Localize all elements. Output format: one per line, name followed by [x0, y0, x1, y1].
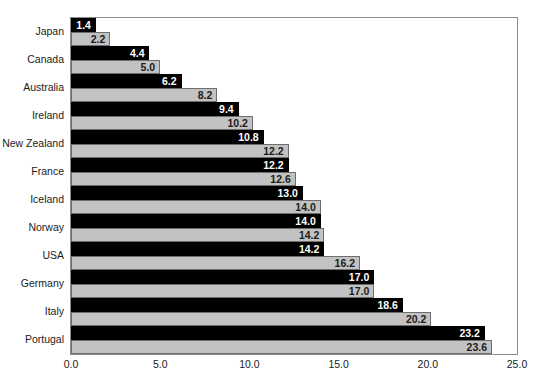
bar: 4.4: [71, 46, 149, 60]
bar-value-label: 14.2: [299, 243, 323, 255]
bar-value-label: 20.2: [406, 313, 430, 325]
bar-value-label: 6.2: [162, 75, 181, 87]
category-label: New Zealand: [0, 138, 64, 149]
bar: 13.0: [71, 186, 303, 200]
x-tick-label: 10.0: [239, 358, 259, 370]
bar-value-label: 17.0: [349, 285, 373, 297]
bar-value-label: 14.2: [299, 229, 323, 241]
category-label: USA: [0, 250, 64, 261]
bar: 8.2: [71, 88, 217, 102]
bar-value-label: 14.0: [295, 201, 319, 213]
bar-value-label: 5.0: [141, 61, 160, 73]
bar: 6.2: [71, 74, 182, 88]
bar: 18.6: [71, 298, 403, 312]
category-label: Norway: [0, 222, 64, 233]
category-label: France: [0, 166, 64, 177]
bar: 17.0: [71, 284, 374, 298]
category-label: Japan: [0, 26, 64, 37]
bar-value-label: 14.0: [295, 215, 319, 227]
bar-value-label: 8.2: [198, 89, 217, 101]
category-label: Ireland: [0, 110, 64, 121]
x-tick-label: 25.0: [507, 358, 527, 370]
bar-value-label: 2.2: [91, 33, 110, 45]
bar: 17.0: [71, 270, 374, 284]
category-label: Iceland: [0, 194, 64, 205]
bar-value-label: 1.4: [76, 19, 95, 31]
category-label: Canada: [0, 54, 64, 65]
bar-value-label: 18.6: [377, 299, 401, 311]
x-tick-label: 5.0: [153, 358, 168, 370]
category-label: Germany: [0, 278, 64, 289]
bar: 12.2: [71, 158, 289, 172]
bar-value-label: 12.2: [263, 145, 287, 157]
bar-value-label: 12.6: [270, 173, 294, 185]
bar-value-label: 17.0: [349, 271, 373, 283]
bar: 20.2: [71, 312, 431, 326]
bars-layer: 1.42.24.45.06.28.29.410.210.812.212.212.…: [71, 18, 517, 354]
category-label: Italy: [0, 306, 64, 317]
x-tick-label: 20.0: [418, 358, 438, 370]
category-label: Australia: [0, 82, 64, 93]
category-axis: JapanCanadaAustraliaIrelandNew ZealandFr…: [0, 18, 64, 354]
bar-chart: JapanCanadaAustraliaIrelandNew ZealandFr…: [0, 0, 535, 385]
bar: 5.0: [71, 60, 160, 74]
bar: 23.2: [71, 326, 485, 340]
bar-value-label: 10.8: [238, 131, 262, 143]
bar-value-label: 9.4: [219, 103, 238, 115]
bar-value-label: 13.0: [277, 187, 301, 199]
bar: 10.8: [71, 130, 264, 144]
x-axis: 0.05.010.015.020.025.0: [70, 358, 518, 378]
bar: 2.2: [71, 32, 110, 46]
bar-value-label: 23.6: [467, 341, 491, 353]
x-tick-label: 15.0: [328, 358, 348, 370]
bar: 14.2: [71, 228, 324, 242]
bar: 14.0: [71, 214, 321, 228]
bar: 12.6: [71, 172, 296, 186]
bar-value-label: 10.2: [228, 117, 252, 129]
bar: 23.6: [71, 340, 492, 354]
x-tick-label: 0.0: [64, 358, 79, 370]
bar: 14.2: [71, 242, 324, 256]
bar: 16.2: [71, 256, 360, 270]
bar: 12.2: [71, 144, 289, 158]
bar-value-label: 23.2: [459, 327, 483, 339]
bar-value-label: 12.2: [263, 159, 287, 171]
bar: 1.4: [71, 18, 96, 32]
bar: 10.2: [71, 116, 253, 130]
bar: 9.4: [71, 102, 239, 116]
category-label: Portugal: [0, 334, 64, 345]
bar-value-label: 16.2: [335, 257, 359, 269]
bar-value-label: 4.4: [130, 47, 149, 59]
bar: 14.0: [71, 200, 321, 214]
